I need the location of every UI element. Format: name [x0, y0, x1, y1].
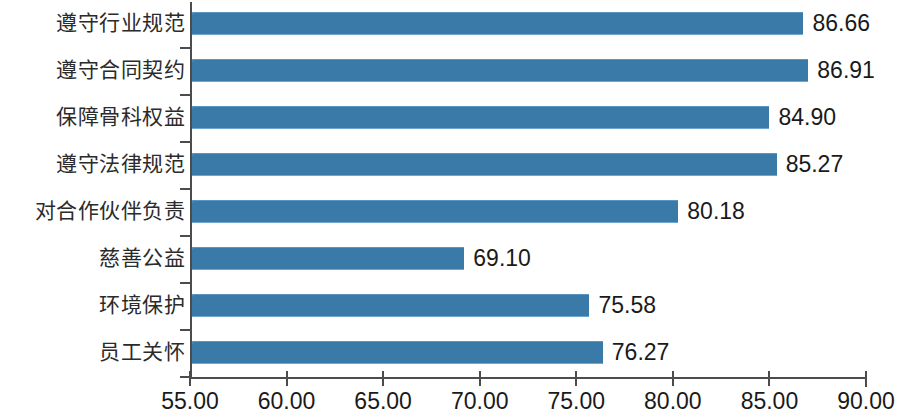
bar-row: 员工关怀76.27: [0, 329, 897, 376]
y-tick-mark: [180, 141, 191, 143]
bar: [192, 106, 769, 129]
bar-value-label: 69.10: [473, 245, 531, 272]
bar-value-label: 80.18: [687, 198, 745, 225]
bar-value-label: 76.27: [612, 339, 670, 366]
x-axis-line: [190, 377, 867, 379]
x-tick-label: 75.00: [548, 388, 606, 415]
y-tick-mark: [180, 188, 191, 190]
x-tick-mark: [672, 371, 674, 386]
bar: [192, 294, 589, 317]
x-tick-mark: [865, 371, 867, 386]
category-label: 员工关怀: [99, 329, 185, 376]
y-tick-mark: [180, 329, 191, 331]
bar: [192, 341, 603, 364]
bar-value-label: 84.90: [778, 104, 836, 131]
bar-row: 遵守法律规范85.27: [0, 141, 897, 188]
category-label: 慈善公益: [99, 235, 185, 282]
bar-row: 遵守行业规范86.66: [0, 0, 897, 47]
x-tick-mark: [479, 371, 481, 386]
x-tick-label: 70.00: [451, 388, 509, 415]
x-tick-label: 80.00: [644, 388, 702, 415]
x-tick-mark: [382, 371, 384, 386]
x-tick-label: 65.00: [354, 388, 412, 415]
bar-row: 遵守合同契约86.91: [0, 47, 897, 94]
x-tick-label: 55.00: [161, 388, 219, 415]
bar: [192, 59, 808, 82]
bar: [192, 12, 803, 35]
y-tick-mark: [180, 94, 191, 96]
y-tick-mark: [180, 47, 191, 49]
x-tick-label: 85.00: [741, 388, 799, 415]
bar-row: 保障骨科权益84.90: [0, 94, 897, 141]
bar-value-label: 85.27: [786, 151, 844, 178]
bar: [192, 247, 464, 270]
x-tick-mark: [575, 371, 577, 386]
y-tick-mark: [180, 282, 191, 284]
bar-chart: 遵守行业规范86.66遵守合同契约86.91保障骨科权益84.90遵守法律规范8…: [0, 0, 897, 420]
x-tick-mark: [768, 371, 770, 386]
category-label: 环境保护: [99, 282, 185, 329]
category-label: 对合作伙伴负责: [35, 188, 186, 235]
x-tick-label: 60.00: [258, 388, 316, 415]
bar-value-label: 86.66: [812, 10, 870, 37]
bar-value-label: 86.91: [817, 57, 875, 84]
bar: [192, 200, 678, 223]
bar-value-label: 75.58: [598, 292, 656, 319]
bar: [192, 153, 777, 176]
category-label: 遵守合同契约: [56, 47, 185, 94]
x-tick-label: 90.00: [837, 388, 895, 415]
bar-row: 慈善公益69.10: [0, 235, 897, 282]
category-label: 遵守行业规范: [56, 0, 185, 47]
x-tick-mark: [189, 371, 191, 386]
bar-row: 环境保护75.58: [0, 282, 897, 329]
y-tick-mark: [180, 235, 191, 237]
category-label: 保障骨科权益: [56, 94, 185, 141]
category-label: 遵守法律规范: [56, 141, 185, 188]
bar-row: 对合作伙伴负责80.18: [0, 188, 897, 235]
x-tick-mark: [286, 371, 288, 386]
